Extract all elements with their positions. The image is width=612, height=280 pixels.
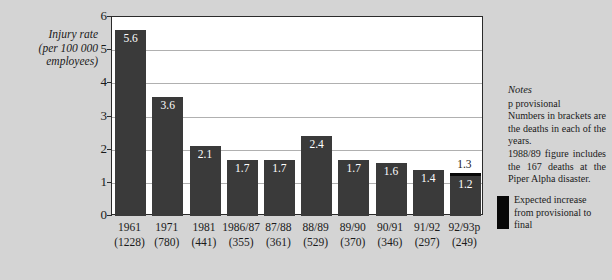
- bar-value-label: 1.7: [227, 162, 258, 174]
- bar-value-label: 1.2: [450, 178, 481, 190]
- plot-area: 5.63.62.11.71.72.41.71.61.41.2: [111, 16, 483, 215]
- y-tick-mark: [107, 215, 112, 216]
- notes-line-3: 1988/89 figure includes the 167 deaths a…: [508, 148, 606, 186]
- expected-final-value-label: 1.3: [449, 158, 480, 170]
- bar: [115, 30, 146, 216]
- bar-value-label: 1.7: [264, 162, 295, 174]
- bar: [152, 97, 183, 216]
- x-tick-label: 92/93p(249): [442, 220, 487, 250]
- y-tick-label: 2: [83, 141, 107, 157]
- chart-root: Injury rate (per 100 000 employees) 0123…: [0, 0, 612, 280]
- x-tick-deaths: (249): [442, 235, 487, 250]
- y-axis-title-line-1: Injury rate: [8, 28, 98, 42]
- bar-value-label: 1.6: [376, 165, 407, 177]
- legend-label: Expected increase from provisional to fi…: [514, 194, 606, 232]
- y-tick-label: 6: [83, 8, 107, 24]
- expected-increase-cap: [450, 173, 481, 176]
- notes-block: Notes p provisional Numbers in brackets …: [508, 84, 606, 186]
- bar-value-label: 1.4: [413, 172, 444, 184]
- gridline: [112, 83, 482, 84]
- bar-value-label: 1.7: [338, 162, 369, 174]
- x-tick-year: 92/93p: [442, 220, 487, 235]
- gridline: [112, 50, 482, 51]
- y-tick-label: 3: [83, 108, 107, 124]
- notes-line-2: Numbers in brackets are the deaths in ea…: [508, 110, 606, 148]
- y-tick-label: 4: [83, 74, 107, 90]
- y-tick-label: 5: [83, 41, 107, 57]
- bar-value-label: 2.4: [301, 138, 332, 150]
- bar-value-label: 2.1: [190, 148, 221, 160]
- expected-increase-swatch: [497, 196, 509, 229]
- notes-line-1: p provisional: [508, 98, 606, 111]
- notes-title: Notes: [508, 84, 606, 97]
- bar-value-label: 5.6: [115, 32, 146, 44]
- y-tick-label: 1: [83, 174, 107, 190]
- y-tick-label: 0: [83, 207, 107, 223]
- bar-value-label: 3.6: [152, 99, 183, 111]
